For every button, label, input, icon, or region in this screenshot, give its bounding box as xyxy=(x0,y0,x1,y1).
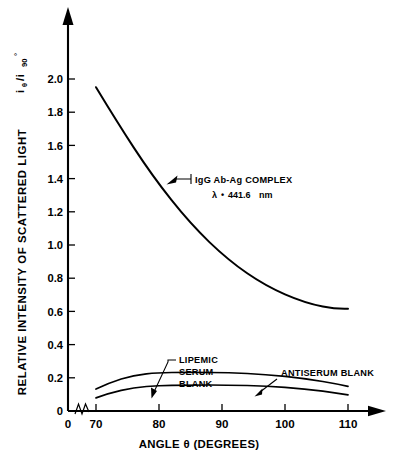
y-axis-symbol-numerator-subscript: θ xyxy=(20,83,29,87)
y-tick-label-1-8: 1.8 xyxy=(47,106,63,118)
antiserum-leader-arrowhead xyxy=(255,389,263,397)
axes-group xyxy=(63,7,387,416)
x-tick-label-90: 90 xyxy=(216,417,229,430)
x-axis-title: ANGLE θ (DEGREES) xyxy=(139,438,260,450)
y-axis-title-group: RELATIVE INTENSITY OF SCATTERED LIGHT xyxy=(16,129,28,396)
y-axis-title: RELATIVE INTENSITY OF SCATTERED LIGHT xyxy=(16,129,28,396)
lipemic-label-line2: SERUM xyxy=(179,367,214,377)
y-axis-symbol-denominator: /i xyxy=(14,74,26,81)
y-ticks-group xyxy=(68,79,75,411)
y-axis-symbol-group: i θ /i 90 ° xyxy=(13,53,29,93)
igg-complex-label-line2: λ • 441.6 nm xyxy=(212,190,273,200)
lambda-symbol: λ xyxy=(212,190,217,200)
x-tick-label-110: 110 xyxy=(339,417,358,430)
lambda-equals-mark: • xyxy=(221,190,224,200)
igg-leader-line xyxy=(175,174,191,184)
y-axis-symbol-degree: ° xyxy=(13,53,22,56)
y-tick-label-2-0: 2.0 xyxy=(47,73,63,85)
chart-canvas: 0 0.2 0.4 0.6 0.8 1.0 1.2 1.4 1.6 1.8 2.… xyxy=(0,0,398,460)
lipemic-leader-line xyxy=(154,360,176,392)
lipemic-leader-arrowhead xyxy=(151,388,157,399)
scattering-figure: 0 0.2 0.4 0.6 0.8 1.0 1.2 1.4 1.6 1.8 2.… xyxy=(0,0,398,460)
y-tick-label-0-8: 0.8 xyxy=(47,272,63,284)
x-tick-label-100: 100 xyxy=(275,417,294,430)
x-axis-break-icon xyxy=(75,404,89,414)
annotation-igg-complex: IgG Ab-Ag COMPLEX λ • 441.6 nm xyxy=(167,174,293,200)
y-axis-symbol-numerator: i xyxy=(14,89,26,93)
y-tick-label-1-6: 1.6 xyxy=(47,140,63,152)
annotation-lipemic-serum-blank: LIPEMIC SERUM BLANK xyxy=(151,355,218,399)
y-tick-label-0-6: 0.6 xyxy=(47,306,63,318)
x-axis-arrowhead xyxy=(368,406,386,416)
annotation-antiserum-blank: ANTISERUM BLANK xyxy=(255,368,375,397)
lipemic-label-line1: LIPEMIC xyxy=(179,355,218,365)
lipemic-label-line3: BLANK xyxy=(179,379,213,389)
y-axis-symbol-denominator-subscript: 90 xyxy=(20,59,29,67)
lambda-unit: nm xyxy=(259,190,273,200)
curve-lipemic-serum-blank xyxy=(96,385,348,398)
igg-leader-arrowhead xyxy=(167,176,178,185)
x-tick-labels-group: 0 70 80 90 100 110 xyxy=(65,417,358,430)
lambda-value: 441.6 xyxy=(228,190,251,200)
igg-complex-label-line1: IgG Ab-Ag COMPLEX xyxy=(195,175,293,185)
y-tick-labels-group: 0 0.2 0.4 0.6 0.8 1.0 1.2 1.4 1.6 1.8 2.… xyxy=(47,73,63,417)
y-axis-arrowhead xyxy=(63,7,74,25)
x-tick-label-0: 0 xyxy=(65,417,71,430)
x-tick-label-80: 80 xyxy=(153,417,166,430)
y-tick-label-0-4: 0.4 xyxy=(47,339,63,351)
y-tick-label-0-2: 0.2 xyxy=(47,372,63,384)
y-tick-label-0: 0 xyxy=(57,405,63,417)
y-tick-label-1-0: 1.0 xyxy=(47,239,63,251)
data-curves-group xyxy=(96,87,348,398)
antiserum-label: ANTISERUM BLANK xyxy=(281,368,374,378)
y-tick-label-1-4: 1.4 xyxy=(47,173,63,185)
y-tick-label-1-2: 1.2 xyxy=(47,206,63,218)
x-tick-label-70: 70 xyxy=(90,417,103,430)
